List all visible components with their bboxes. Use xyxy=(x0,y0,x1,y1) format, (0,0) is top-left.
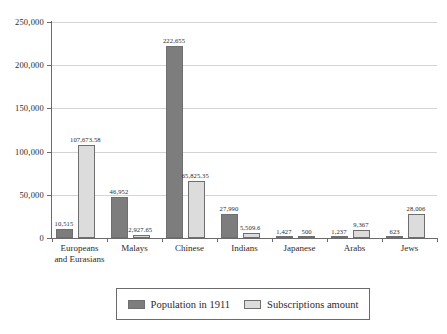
bar-value-label: 1,237 xyxy=(331,228,346,235)
y-tick-label: 0 xyxy=(0,233,44,243)
chart-legend: Population in 1911 Subscriptions amount xyxy=(116,288,370,320)
bar-group: 1,2379,367 xyxy=(327,22,382,238)
bar-subscriptions[interactable] xyxy=(408,214,425,238)
x-tick-mark xyxy=(272,238,273,242)
y-tick-label: 100,000 xyxy=(0,147,44,157)
x-category-label-line: Europeans xyxy=(61,243,99,253)
bar-value-label: 10,515 xyxy=(55,220,74,227)
bar-group: 222,65565,825.35 xyxy=(162,22,217,238)
bar-subscriptions[interactable] xyxy=(133,235,150,238)
x-category-label-line: and Eurasians xyxy=(52,254,107,265)
x-category-label: Arabs xyxy=(327,243,382,254)
bar-population[interactable] xyxy=(331,236,348,238)
x-category-label: Jews xyxy=(382,243,437,254)
bar-value-label: 2,927.65 xyxy=(128,226,152,233)
legend-swatch-population xyxy=(128,300,145,309)
bar-value-label: 107,673.58 xyxy=(70,136,101,143)
y-tick-label: 50,000 xyxy=(0,190,44,200)
bar-value-label: 28,006 xyxy=(407,205,426,212)
x-tick-mark xyxy=(382,238,383,242)
x-tick-mark xyxy=(162,238,163,242)
bar-population[interactable] xyxy=(386,236,403,238)
x-category-label: Japanese xyxy=(272,243,327,254)
y-tick-label: 200,000 xyxy=(0,60,44,70)
x-category-label: Europeansand Eurasians xyxy=(52,243,107,265)
y-tick-label: 150,000 xyxy=(0,103,44,113)
bar-value-label: 9,367 xyxy=(353,221,368,228)
x-axis-line xyxy=(51,238,437,239)
x-category-label: Indians xyxy=(217,243,272,254)
bar-chart-figure: 050,000100,000150,000200,000250,000 10,5… xyxy=(0,0,447,334)
bar-group: 10,515107,673.58 xyxy=(52,22,107,238)
bar-group: 1,427500 xyxy=(272,22,327,238)
legend-item-population: Population in 1911 xyxy=(128,299,231,310)
bar-value-label: 65,825.35 xyxy=(182,172,209,179)
x-category-label-line: Japanese xyxy=(284,243,316,253)
legend-label-subscriptions: Subscriptions amount xyxy=(267,299,358,310)
x-tick-mark xyxy=(52,238,53,242)
x-tick-mark xyxy=(107,238,108,242)
bar-value-label: 46,952 xyxy=(110,188,129,195)
bar-subscriptions[interactable] xyxy=(78,145,95,238)
bar-population[interactable] xyxy=(56,229,73,238)
x-tick-mark xyxy=(217,238,218,242)
plot-area: 10,515107,673.5846,9522,927.65222,65565,… xyxy=(52,22,437,238)
x-category-label-line: Jews xyxy=(401,243,419,253)
bar-population[interactable] xyxy=(221,214,238,238)
x-category-label: Malays xyxy=(107,243,162,254)
x-category-label: Chinese xyxy=(162,243,217,254)
x-category-label-line: Arabs xyxy=(344,243,366,253)
bar-population[interactable] xyxy=(111,197,128,238)
bar-population[interactable] xyxy=(166,46,183,238)
bar-subscriptions[interactable] xyxy=(243,233,260,238)
bar-subscriptions[interactable] xyxy=(353,230,370,238)
x-category-label-line: Malays xyxy=(121,243,148,253)
x-tick-mark xyxy=(327,238,328,242)
x-category-label-line: Chinese xyxy=(175,243,204,253)
bar-value-label: 27,990 xyxy=(220,205,239,212)
bar-value-label: 623 xyxy=(390,228,400,235)
legend-swatch-subscriptions xyxy=(244,300,261,309)
bar-value-label: 1,427 xyxy=(276,228,291,235)
bar-value-label: 500 xyxy=(302,228,312,235)
legend-item-subscriptions: Subscriptions amount xyxy=(244,299,358,310)
bar-group: 62328,006 xyxy=(382,22,437,238)
x-tick-mark xyxy=(437,238,438,242)
bar-group: 46,9522,927.65 xyxy=(107,22,162,238)
bar-value-label: 222,655 xyxy=(163,37,185,44)
legend-label-population: Population in 1911 xyxy=(151,299,231,310)
bar-subscriptions[interactable] xyxy=(188,181,205,238)
bar-population[interactable] xyxy=(276,236,293,238)
bar-value-label: 5,509.6 xyxy=(240,224,260,231)
bar-subscriptions[interactable] xyxy=(298,236,315,238)
y-tick-label: 250,000 xyxy=(0,17,44,27)
bar-group: 27,9905,509.6 xyxy=(217,22,272,238)
x-category-label-line: Indians xyxy=(231,243,258,253)
